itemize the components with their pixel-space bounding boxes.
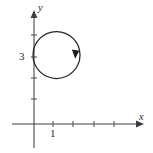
y-axis-arrowhead	[31, 10, 38, 18]
y-tick-label-3: 3	[19, 51, 25, 62]
x-tick-label-1: 1	[50, 128, 56, 139]
y-axis-label: y	[38, 3, 43, 14]
direction-arrowhead-icon	[72, 50, 79, 59]
figure-canvas: y x 3 1	[0, 0, 153, 153]
x-axis-label: x	[139, 112, 144, 123]
plot-svg	[0, 0, 153, 153]
circle-curve	[33, 32, 80, 79]
